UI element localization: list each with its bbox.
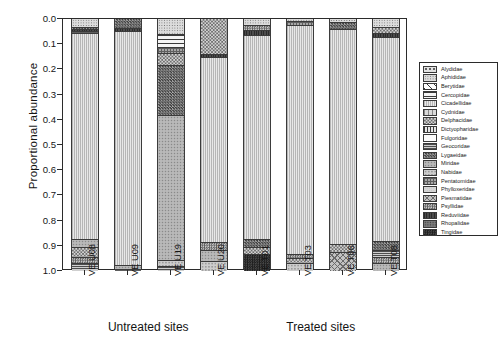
legend-item-alydidae[interactable]: Alydidae [422, 65, 495, 74]
legend-swatch [423, 169, 437, 176]
legend-swatch [423, 66, 437, 73]
bar-ve-u09[interactable] [114, 19, 142, 269]
legend-label: Rhopalidae [441, 220, 469, 227]
legend-swatch [423, 212, 437, 219]
x-tick-label: VE T08 [389, 245, 399, 276]
y-tick-label: 0.1 [43, 38, 56, 49]
bar-ve-u19[interactable] [157, 19, 185, 269]
x-tick-mark [213, 270, 214, 275]
legend-label: Fulgoridae [441, 135, 467, 142]
x-tick-label: VE U09 [130, 244, 140, 276]
legend-item-dictyopharidae[interactable]: Dictyopharidae [422, 125, 495, 134]
bar-segment-lygaeidae [158, 65, 184, 115]
bar-segment-cicadellidae [115, 31, 141, 265]
legend-swatch [423, 74, 437, 81]
legend-item-delphacidae[interactable]: Delphacidae [422, 117, 495, 126]
x-tick-mark [170, 270, 171, 275]
legend-label: Geocoridae [441, 143, 470, 150]
bar-segment-cicadellidae [72, 33, 98, 239]
y-tick-label: 0.9 [43, 239, 56, 250]
x-tick-mark [385, 270, 386, 275]
bar-segment-aphididae [72, 19, 98, 27]
legend-item-berytidae[interactable]: Berytidae [422, 82, 495, 91]
x-tick-label: VE U08 [87, 244, 97, 276]
legend-label: Alydidae [441, 66, 462, 73]
legend-item-lygaeidae[interactable]: Lygaeidae [422, 151, 495, 160]
legend-item-rhopalidae[interactable]: Rhopalidae [422, 220, 495, 229]
legend-swatch [423, 126, 437, 133]
y-tick-label: 0.2 [43, 63, 56, 74]
legend-swatch [423, 177, 437, 184]
legend-item-piesmatidae[interactable]: Piesmatidae [422, 194, 495, 203]
chart-legend: AlydidaeAphididaeBerytidaeCercopidaeCica… [419, 62, 498, 236]
plot-area [62, 18, 407, 270]
x-tick-label: VE T01 [260, 245, 270, 276]
y-axis-tick-labels: 0.00.10.20.30.40.50.60.70.80.91.0 [20, 18, 56, 270]
legend-swatch [423, 134, 437, 141]
legend-label: Phylloxeridae [441, 186, 475, 193]
figure-stacked-bar-chart: Proportional abundance 0.00.10.20.30.40.… [0, 0, 500, 349]
legend-item-geocoridae[interactable]: Geocoridae [422, 142, 495, 151]
group-label: Treated sites [241, 320, 401, 334]
bar-ve-t03[interactable] [286, 19, 314, 269]
bar-segment-aphididae [373, 19, 399, 27]
legend-item-cicadellidae[interactable]: Cicadellidae [422, 99, 495, 108]
bar-segment-delphacidae [158, 53, 184, 65]
legend-item-psyllidae[interactable]: Psyllidae [422, 203, 495, 212]
legend-label: Pentatomidae [441, 178, 476, 185]
legend-swatch [423, 143, 437, 150]
legend-label: Berytidae [441, 83, 465, 90]
legend-swatch [423, 220, 437, 227]
bar-ve-u08[interactable] [71, 19, 99, 269]
bar-segment-cicadellidae [244, 35, 270, 239]
legend-item-phylloxeridae[interactable]: Phylloxeridae [422, 185, 495, 194]
legend-label: Delphacidae [441, 117, 472, 124]
legend-label: Piesmatidae [441, 195, 472, 202]
legend-swatch [423, 100, 437, 107]
legend-swatch [423, 160, 437, 167]
legend-item-fulgoridae[interactable]: Fulgoridae [422, 134, 495, 143]
legend-label: Dictyopharidae [441, 126, 478, 133]
legend-swatch [423, 91, 437, 98]
legend-item-cercopidae[interactable]: Cercopidae [422, 91, 495, 100]
y-tick-label: 0.6 [43, 164, 56, 175]
legend-label: Miridae [441, 160, 459, 167]
legend-swatch [423, 229, 437, 236]
legend-item-tingidae[interactable]: Tingidae [422, 228, 495, 237]
legend-label: Cercopidae [441, 92, 470, 99]
bar-ve-u20[interactable] [200, 19, 228, 269]
legend-label: Psyllidae [441, 203, 463, 210]
legend-item-reduviidae[interactable]: Reduviidae [422, 211, 495, 220]
legend-label: Lygaeidae [441, 152, 467, 159]
bar-ve-t06[interactable] [329, 19, 357, 269]
x-tick-mark [127, 270, 128, 275]
bar-segment-cercopidae [158, 34, 184, 47]
legend-label: Cydnidae [441, 109, 465, 116]
legend-swatch [423, 195, 437, 202]
legend-label: Nabidae [441, 169, 462, 176]
bar-segment-delphacidae [201, 19, 227, 54]
bar-ve-t08[interactable] [372, 19, 400, 269]
legend-item-nabidae[interactable]: Nabidae [422, 168, 495, 177]
legend-swatch [423, 152, 437, 159]
y-tick-label: 1.0 [43, 265, 56, 276]
legend-item-cydnidae[interactable]: Cydnidae [422, 108, 495, 117]
legend-swatch [423, 83, 437, 90]
y-tick-label: 0.7 [43, 189, 56, 200]
bar-ve-t01[interactable] [243, 19, 271, 269]
legend-item-pentatomidae[interactable]: Pentatomidae [422, 177, 495, 186]
group-label: Untreated sites [68, 320, 228, 334]
x-tick-label: VE T06 [346, 245, 356, 276]
legend-label: Tingidae [441, 229, 462, 236]
x-tick-label: VE U20 [216, 244, 226, 276]
bars-container [63, 19, 406, 269]
bar-segment-miridae [158, 115, 184, 260]
x-tick-label: VE U19 [173, 244, 183, 276]
legend-label: Cicadellidae [441, 100, 471, 107]
legend-swatch [423, 186, 437, 193]
y-tick-label: 0.8 [43, 214, 56, 225]
bar-segment-lygaeidae [115, 19, 141, 28]
legend-item-aphididae[interactable]: Aphididae [422, 74, 495, 83]
legend-item-miridae[interactable]: Miridae [422, 160, 495, 169]
x-tick-mark [299, 270, 300, 275]
